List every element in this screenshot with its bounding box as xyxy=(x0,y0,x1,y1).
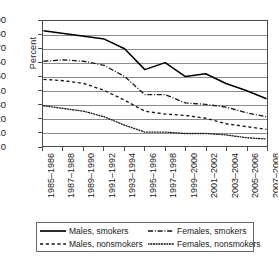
legend-swatch-icon xyxy=(40,240,66,248)
legend-swatch-icon xyxy=(148,240,174,248)
legend-label: Males, nonsmokers xyxy=(69,239,143,249)
x-axis-tick-label: 2007–2008 xyxy=(272,153,279,223)
x-axis-tick-mark xyxy=(206,147,207,151)
x-axis-tick-mark xyxy=(226,147,227,151)
legend-swatch-icon xyxy=(148,227,174,235)
series-line xyxy=(43,31,266,99)
legend-label: Males, smokers xyxy=(69,226,129,236)
legend-item[interactable]: Males, smokers xyxy=(40,226,148,236)
y-axis-tick-label: 30 xyxy=(0,100,6,110)
y-axis-tick-label: 70 xyxy=(0,43,6,53)
legend-item[interactable]: Females, nonsmokers xyxy=(148,239,258,249)
x-axis-tick-label: 1993–1994 xyxy=(128,153,137,223)
x-axis-tick-label: 1999–2000 xyxy=(190,153,199,223)
x-axis-tick-mark xyxy=(247,147,248,151)
legend-swatch-icon xyxy=(40,227,66,235)
y-axis-tick-label: 40 xyxy=(0,86,6,96)
x-axis-tick-mark xyxy=(185,147,186,151)
x-axis-tick-mark xyxy=(103,147,104,151)
x-axis-tick-mark xyxy=(42,147,43,151)
line-chart: Percent 0102030405060708090 1985–1986198… xyxy=(0,0,278,256)
x-axis-tick-label: 2005–2006 xyxy=(251,153,260,223)
y-axis-tick-label: 50 xyxy=(0,71,6,81)
x-axis-tick-mark xyxy=(83,147,84,151)
legend-label: Females, nonsmokers xyxy=(177,239,261,249)
y-axis-tick-label: 0 xyxy=(0,142,6,152)
series-lines xyxy=(43,21,267,146)
y-axis-title: Percent xyxy=(28,18,38,88)
x-axis-tick-label: 1989–1990 xyxy=(87,153,96,223)
y-axis-tick-label: 90 xyxy=(0,15,6,25)
x-axis-tick-label: 2003–2004 xyxy=(231,153,240,223)
legend-label: Females, smokers xyxy=(177,226,246,236)
series-line xyxy=(43,106,266,139)
y-axis-tick-label: 80 xyxy=(0,29,6,39)
x-axis-tick-mark xyxy=(144,147,145,151)
x-axis-tick-mark xyxy=(165,147,166,151)
series-line xyxy=(43,79,266,129)
x-axis-tick-label: 1991–1992 xyxy=(108,153,117,223)
y-axis-tick-label: 20 xyxy=(0,114,6,124)
x-axis-tick-label: 1995–1996 xyxy=(149,153,158,223)
series-line xyxy=(43,60,266,117)
plot-area xyxy=(42,20,268,147)
x-axis-tick-mark xyxy=(267,147,268,151)
legend-item[interactable]: Females, smokers xyxy=(148,226,258,236)
chart-legend: Males, smokersFemales, smokersMales, non… xyxy=(36,222,254,252)
x-axis-tick-mark xyxy=(62,147,63,151)
x-axis-tick-label: 1985–1986 xyxy=(47,153,56,223)
legend-item[interactable]: Males, nonsmokers xyxy=(40,239,148,249)
y-axis-tick-label: 60 xyxy=(0,57,6,67)
x-axis-tick-label: 1987–1988 xyxy=(67,153,76,223)
x-axis-tick-label: 1997–1998 xyxy=(169,153,178,223)
y-axis-tick-label: 10 xyxy=(0,128,6,138)
x-axis-tick-mark xyxy=(124,147,125,151)
x-axis-tick-label: 2001–2002 xyxy=(210,153,219,223)
